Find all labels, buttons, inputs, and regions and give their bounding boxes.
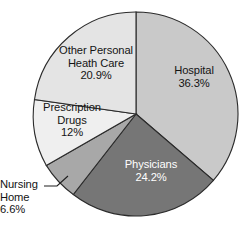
pie-chart-svg [0, 0, 246, 230]
pie-chart-figure: Hospital 36.3% Physicians 24.2% Other Pe… [0, 0, 246, 230]
pie-slices [33, 12, 238, 216]
pie-slice-other-personal-heath-care[interactable] [35, 12, 137, 114]
